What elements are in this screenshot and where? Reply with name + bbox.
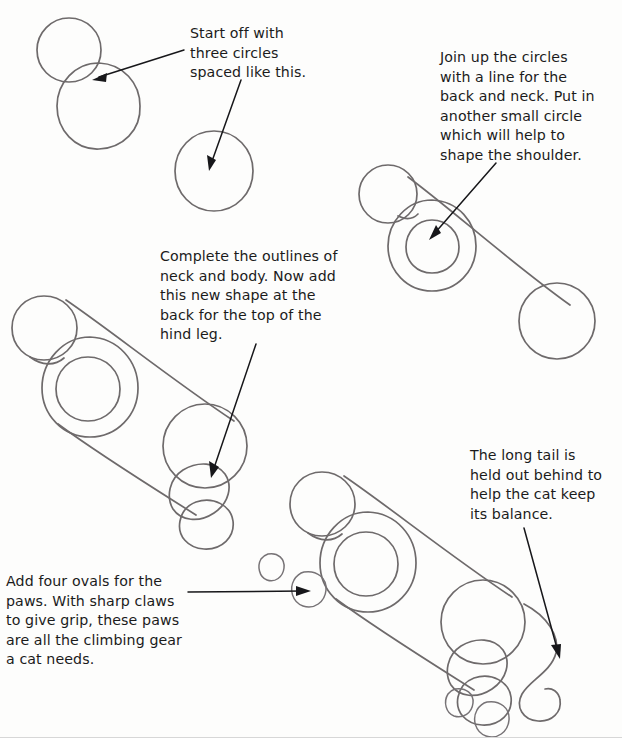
belly-line: [336, 599, 474, 690]
shoulder-circle: [334, 532, 398, 596]
paw-oval-3: [446, 689, 474, 717]
caption-step-2: Join up the circles with a line for the …: [440, 48, 595, 165]
caption-step-5: Add four ovals for the paws. With sharp …: [6, 572, 182, 670]
body-circle: [57, 63, 140, 149]
hindquarters-circle: [441, 580, 525, 664]
paw-oval-4: [475, 702, 509, 737]
back-line: [408, 177, 570, 305]
head-circle: [290, 472, 355, 536]
caption-step-1: Start off with three circles spaced like…: [190, 24, 306, 83]
head-circle: [359, 165, 417, 223]
arrow-2: [207, 80, 241, 171]
hind-leg-shape: [447, 640, 507, 695]
shoulder-circle: [406, 220, 459, 273]
head-circle: [12, 296, 77, 360]
caption-step-3: Complete the outlines of neck and body. …: [160, 247, 338, 345]
figure-2: [359, 165, 595, 359]
arrowhead: [296, 586, 311, 596]
hindquarters-circle: [175, 131, 253, 211]
head-circle: [37, 18, 101, 82]
tail-curve: [519, 604, 560, 721]
hind-leg-lower-shape: [458, 676, 512, 725]
arrowhead: [207, 155, 216, 171]
neck-line: [398, 214, 418, 218]
arrow-4: [209, 344, 256, 478]
tutorial-page: Start off with three circles spaced like…: [0, 0, 622, 738]
arrowhead: [92, 73, 107, 82]
arrowhead: [209, 461, 219, 478]
hindquarters-circle: [519, 283, 595, 359]
arrowhead: [429, 225, 441, 240]
arrowhead: [551, 644, 561, 659]
body-circle: [388, 200, 476, 291]
paw-oval-1: [259, 554, 284, 581]
caption-step-4: The long tail is held out behind to help…: [470, 446, 602, 524]
paw-oval-2: [292, 572, 326, 607]
hindquarters-circle: [163, 404, 247, 488]
arrow-6: [188, 586, 311, 596]
arrow-5: [524, 528, 561, 659]
arrow-1: [92, 50, 184, 82]
hind-leg-lower-shape: [180, 500, 234, 549]
arrow-3: [429, 163, 496, 240]
neck-line: [30, 357, 64, 364]
body-circle: [320, 512, 416, 612]
neck-line: [308, 533, 342, 540]
hind-leg-shape: [169, 464, 229, 519]
belly-line: [58, 424, 196, 515]
shoulder-circle: [56, 357, 120, 421]
body-circle: [42, 337, 138, 437]
